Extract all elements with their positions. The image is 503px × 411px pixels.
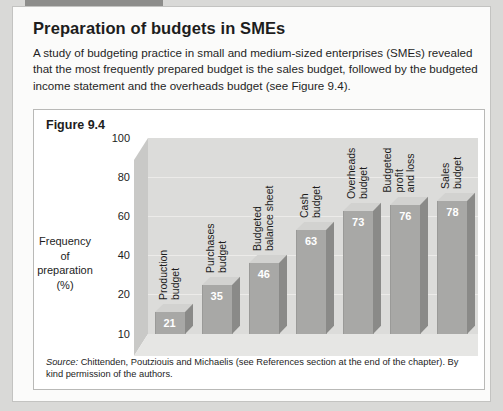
bar-front-face — [437, 201, 468, 334]
bar-category-label-line: budget — [169, 250, 181, 300]
page-root: Preparation of budgets in SMEs A study o… — [0, 0, 503, 411]
bar-value-label: 46 — [249, 268, 279, 280]
bar-value-label: 78 — [437, 206, 467, 218]
bar-side-face — [420, 196, 428, 334]
y-axis-title-line: (%) — [34, 278, 96, 293]
bar-value-label: 63 — [296, 235, 326, 247]
bar-front-face — [343, 211, 374, 334]
bar: 63Cashbudget — [296, 230, 326, 334]
bar-value-label: 76 — [390, 210, 420, 222]
bar-series: 21Productionbudget35Purchasesbudget46Bud… — [148, 138, 478, 334]
y-axis-tick: 20 — [98, 288, 130, 300]
plot-wall-side — [134, 138, 148, 356]
bar-category-label-line: budget — [452, 157, 464, 189]
bar-side-face — [326, 222, 334, 334]
bar-category-label: Overheadsbudget — [346, 147, 369, 198]
source-note: Source: Chittenden, Poutziouis and Micha… — [46, 356, 470, 381]
bar-category-label: Salesbudget — [440, 157, 463, 189]
bar: 78Salesbudget — [437, 201, 467, 334]
bar-category-label: Cashbudget — [299, 186, 322, 218]
y-axis-tick: 10 — [98, 328, 130, 340]
bar-side-face — [279, 255, 287, 334]
content-card: Preparation of budgets in SMEs A study o… — [12, 6, 491, 402]
bar-category-label-line: balance sheet — [263, 186, 275, 251]
figure-label: Figure 9.4 — [46, 118, 105, 132]
y-axis-title-line: preparation — [34, 263, 96, 278]
bar-side-face — [373, 202, 381, 334]
source-text: Chittenden, Poutziouis and Michaelis (se… — [46, 357, 458, 379]
bar-category-label-line: Production — [158, 250, 170, 300]
bar-category-label-line: Purchases — [205, 223, 217, 273]
y-axis-title-line: Frequency — [34, 234, 96, 249]
body-paragraph: A study of budgeting practice in small a… — [33, 45, 485, 94]
bar-category-label-line: budget — [358, 147, 370, 198]
bar-value-label: 21 — [155, 317, 185, 329]
y-axis-tick: 80 — [98, 171, 130, 183]
bar-category-label-line: Budgeted — [252, 186, 264, 251]
bar: 46Budgetedbalance sheet — [249, 263, 279, 334]
y-axis-tick: 40 — [98, 249, 130, 261]
bar-value-label: 73 — [343, 216, 373, 228]
y-axis-title-line: of — [34, 249, 96, 264]
bar-category-label-line: and loss — [405, 148, 417, 193]
source-prefix: Source: — [46, 357, 78, 367]
bar: 73Overheadsbudget — [343, 211, 373, 334]
bar-category-label-line: budget — [311, 186, 323, 218]
bar-side-face — [232, 277, 240, 334]
page-title: Preparation of budgets in SMEs — [33, 19, 285, 38]
bar: 35Purchasesbudget — [202, 285, 232, 334]
y-axis-ticks: 100 80 60 40 20 10 — [92, 138, 130, 356]
bar-value-label: 35 — [202, 290, 232, 302]
y-axis-tick: 100 — [98, 132, 130, 144]
bar-category-label: Productionbudget — [158, 250, 181, 300]
bar-category-label: Budgetedprofitand loss — [382, 148, 417, 193]
bar-category-label: Budgetedbalance sheet — [252, 186, 275, 251]
plot-area: 21Productionbudget35Purchasesbudget46Bud… — [134, 138, 478, 356]
figure-container: Figure 9.4 Frequency of preparation (%) … — [33, 109, 485, 390]
bar-chart: Frequency of preparation (%) 100 80 60 4… — [34, 138, 484, 356]
bar-category-label: Purchasesbudget — [205, 223, 228, 273]
y-axis-tick: 60 — [98, 210, 130, 222]
bar-side-face — [467, 192, 475, 334]
bar: 21Productionbudget — [155, 312, 185, 334]
y-axis-title: Frequency of preparation (%) — [34, 234, 96, 292]
bar-front-face — [390, 205, 421, 334]
bar: 76Budgetedprofitand loss — [390, 205, 420, 334]
bar-category-label-line: Cash — [299, 186, 311, 218]
bar-category-label-line: Overheads — [346, 147, 358, 198]
bar-category-label-line: budget — [216, 223, 228, 273]
plot-floor — [134, 334, 478, 356]
